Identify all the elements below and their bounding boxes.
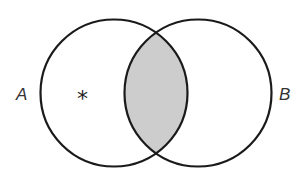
- venn-diagram: A B *: [0, 0, 304, 177]
- set-label-b: B: [279, 85, 290, 104]
- set-label-a: A: [15, 85, 27, 104]
- asterisk-marker: *: [77, 86, 88, 111]
